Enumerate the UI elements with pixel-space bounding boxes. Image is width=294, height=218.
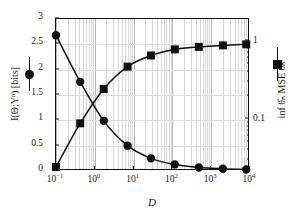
right-minor-tick-mark xyxy=(247,158,250,159)
right-tick-mark xyxy=(245,40,249,41)
chart-figure: I(Θ;Yⁿ) [bits] inf θ̂ₙ MSE θ̂ₙ 00.511.52… xyxy=(0,0,294,218)
data-point-square xyxy=(76,119,84,127)
left-tick-text: 1.5 xyxy=(31,87,43,97)
series-line-2 xyxy=(56,44,246,167)
right-minor-tick-mark xyxy=(247,63,250,64)
data-point-circle xyxy=(123,141,131,149)
right-minor-tick-mark xyxy=(247,94,250,95)
data-point-circle xyxy=(52,31,60,39)
right-minor-tick-mark xyxy=(247,47,250,48)
circle-icon xyxy=(25,70,34,79)
right-tick-mark xyxy=(245,118,249,119)
right-minor-tick-mark xyxy=(247,57,250,58)
left-tick-mark xyxy=(55,94,59,95)
data-point-square xyxy=(171,45,179,53)
data-series-layer xyxy=(56,19,250,171)
left-tick-text: 2 xyxy=(38,62,43,72)
data-point-circle xyxy=(195,163,203,171)
data-point-circle xyxy=(100,117,108,125)
left-tick-mark xyxy=(55,119,59,120)
data-point-square xyxy=(195,43,203,51)
right-minor-tick-mark xyxy=(247,130,250,131)
right-minor-tick-mark xyxy=(247,141,250,142)
data-point-square xyxy=(124,63,132,71)
right-minor-tick-mark xyxy=(247,135,250,136)
left-tick-text: 0.5 xyxy=(31,138,43,148)
x-tick-mark xyxy=(133,166,134,170)
right-minor-tick-mark xyxy=(247,80,250,81)
left-tick-text: 1 xyxy=(38,112,43,122)
data-point-circle xyxy=(219,165,227,173)
left-tick-mark xyxy=(55,43,59,44)
x-tick-label: 104 xyxy=(243,172,256,184)
right-minor-tick-mark xyxy=(247,71,250,72)
x-tick-mark xyxy=(94,166,95,170)
x-axis-label-text: D xyxy=(148,196,156,208)
data-point-square xyxy=(100,85,108,93)
legend-circle-marker xyxy=(22,57,38,91)
right-axis-label: inf θ̂ₙ MSE θ̂ₙ xyxy=(276,62,287,119)
data-point-square xyxy=(219,41,227,49)
right-axis-label-text: inf θ̂ₙ MSE θ̂ₙ xyxy=(276,62,287,119)
x-tick-mark xyxy=(210,166,211,170)
left-tick-mark xyxy=(55,68,59,69)
plot-area xyxy=(55,18,249,170)
left-tick-text: 3 xyxy=(38,11,43,21)
right-minor-tick-mark xyxy=(247,52,250,53)
data-point-circle xyxy=(147,154,155,162)
x-tick-mark xyxy=(249,166,250,170)
left-tick-mark xyxy=(55,18,59,19)
data-point-square xyxy=(147,51,155,59)
right-minor-tick-mark xyxy=(247,149,250,150)
left-tick-text: 2.5 xyxy=(31,36,43,46)
x-tick-label: 101 xyxy=(126,172,139,184)
left-axis-label-text: I(Θ;Yⁿ) [bits] xyxy=(9,67,20,121)
left-tick-mark xyxy=(55,144,59,145)
right-tick-label: 0.1 xyxy=(253,113,265,123)
x-tick-label: 10−1 xyxy=(47,172,64,184)
left-tick-text: 0 xyxy=(38,163,43,173)
x-tick-label: 103 xyxy=(204,172,217,184)
right-minor-tick-mark xyxy=(247,43,250,44)
x-axis-label: D xyxy=(148,196,156,208)
left-axis-label: I(Θ;Yⁿ) [bits] xyxy=(9,67,20,121)
right-tick-label: 1 xyxy=(253,35,258,45)
x-tick-mark xyxy=(171,166,172,170)
right-minor-tick-mark xyxy=(247,125,250,126)
x-tick-label: 102 xyxy=(165,172,178,184)
right-minor-tick-mark xyxy=(247,121,250,122)
data-point-circle xyxy=(76,78,84,86)
x-tick-label: 100 xyxy=(87,172,100,184)
x-tick-mark xyxy=(55,166,56,170)
